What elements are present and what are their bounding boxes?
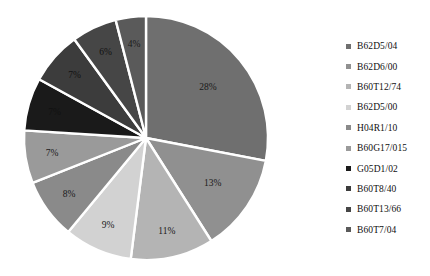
legend-swatch-icon — [346, 207, 351, 212]
pie-slice-percent-label: 13% — [204, 178, 222, 188]
legend-swatch-icon — [346, 166, 351, 171]
legend-item-label: B60G17/015 — [357, 143, 407, 153]
legend-item[interactable]: B60G17/015 — [346, 138, 430, 158]
legend-item-label: H04R1/10 — [357, 123, 397, 133]
legend-item-label: B60T13/66 — [357, 204, 401, 214]
legend-item[interactable]: B60T8/40 — [346, 179, 430, 199]
legend-item[interactable]: B62D6/00 — [346, 56, 430, 76]
legend-item[interactable]: B60T13/66 — [346, 199, 430, 219]
pie-slice-percent-label: 7% — [46, 148, 59, 158]
legend-item-label: B62D6/00 — [357, 62, 397, 72]
legend-swatch-icon — [346, 64, 351, 69]
legend-swatch-icon — [346, 186, 351, 191]
pie-chart-svg: 28%13%11%9%8%7%7%7%6%4% — [0, 0, 320, 276]
pie-slice-percent-label: 7% — [68, 70, 81, 80]
pie-slice-percent-label: 28% — [199, 82, 217, 92]
legend-item-label: B62D5/04 — [357, 41, 397, 51]
legend-swatch-icon — [346, 146, 351, 151]
legend-swatch-icon — [346, 125, 351, 130]
legend-swatch-icon — [346, 44, 351, 49]
legend-item[interactable]: B62D5/04 — [346, 36, 430, 56]
legend-swatch-icon — [346, 105, 351, 110]
pie-slice-percent-label: 6% — [99, 47, 112, 57]
legend-item[interactable]: G05D1/02 — [346, 158, 430, 178]
legend-item-label: B62D5/00 — [357, 102, 397, 112]
legend-swatch-icon — [346, 227, 351, 232]
legend-item[interactable]: B62D5/00 — [346, 97, 430, 117]
legend-item[interactable]: H04R1/10 — [346, 118, 430, 138]
pie-chart: 28%13%11%9%8%7%7%7%6%4% — [0, 0, 320, 276]
legend-item-label: G05D1/02 — [357, 164, 398, 174]
legend-item[interactable]: B60T12/74 — [346, 77, 430, 97]
pie-slice-percent-label: 9% — [102, 220, 115, 230]
legend-item-label: B60T7/04 — [357, 225, 396, 235]
pie-slice-percent-label: 11% — [158, 226, 175, 236]
pie-slice-percent-label: 7% — [48, 107, 61, 117]
pie-slices — [24, 16, 268, 260]
pie-slice-percent-label: 8% — [63, 189, 76, 199]
legend-swatch-icon — [346, 84, 351, 89]
legend-item-label: B60T12/74 — [357, 82, 401, 92]
legend-item[interactable]: B60T7/04 — [346, 220, 430, 240]
chart-legend: B62D5/04B62D6/00B60T12/74B62D5/00H04R1/1… — [346, 36, 430, 240]
pie-slice-percent-label: 4% — [128, 39, 141, 49]
legend-item-label: B60T8/40 — [357, 184, 396, 194]
